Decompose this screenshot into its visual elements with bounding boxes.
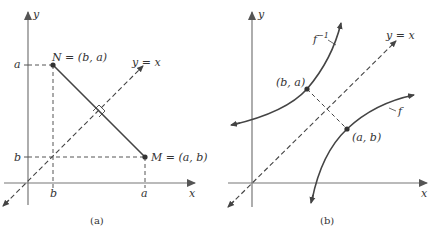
- curve-f-label: f: [397, 105, 404, 118]
- x-axis-label: x: [189, 187, 196, 200]
- tick-y-b: b: [14, 151, 21, 164]
- diagonal-label: y = x: [385, 29, 415, 42]
- point-a-b-label: (a, b): [352, 131, 381, 144]
- y-axis-label: y: [32, 8, 40, 21]
- tick-x-b: b: [50, 187, 57, 200]
- panel-a: y x N = (b, a) M = (a, b) y = x a b b a …: [3, 8, 208, 226]
- y-axis-label: y: [257, 8, 265, 21]
- tick-y-a: a: [14, 58, 21, 71]
- point-M: [142, 154, 147, 159]
- panel-b: y x y = x f−1 f (b, a) (a, b) (b): [228, 8, 428, 226]
- curve-f-inverse-label: f−1: [312, 31, 329, 46]
- diagonal-label: y = x: [131, 56, 161, 69]
- figure: y x N = (b, a) M = (a, b) y = x a b b a …: [0, 0, 435, 234]
- point-M-label: M = (a, b): [150, 151, 208, 164]
- tick-x-a: a: [141, 187, 148, 200]
- point-a-b: [344, 126, 349, 131]
- point-N-label: N = (b, a): [51, 51, 107, 64]
- diagonal-y-equals-x: [230, 41, 396, 205]
- x-axis-label: x: [421, 187, 428, 200]
- segment-NM: [53, 65, 145, 157]
- caption-b: (b): [320, 215, 334, 226]
- point-b-a-label: (b, a): [276, 76, 305, 89]
- caption-a: (a): [90, 215, 104, 226]
